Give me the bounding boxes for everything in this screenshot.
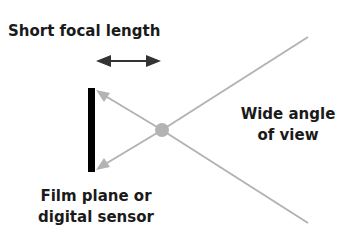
- film-plane-label-line2: digital sensor: [26, 207, 166, 228]
- sensor-bar: [88, 88, 95, 172]
- wide-angle-label-line1: Wide angle: [233, 104, 343, 125]
- ray-to-sensor-bottom: [96, 130, 162, 170]
- short-focal-length-label: Short focal length: [8, 21, 160, 42]
- ray-to-sensor-top: [96, 90, 162, 130]
- film-plane-label-line1: Film plane or: [26, 186, 166, 207]
- focal-length-arrow-icon: [96, 55, 161, 67]
- wide-angle-label-line2: of view: [233, 125, 343, 146]
- wide-angle-label: Wide angle of view: [233, 104, 343, 146]
- lens-center-dot: [155, 123, 169, 137]
- film-plane-label: Film plane or digital sensor: [26, 186, 166, 228]
